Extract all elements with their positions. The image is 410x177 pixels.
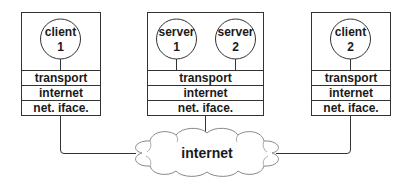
layer-net-iface: net. iface. [178,101,233,115]
layer-transport: transport [325,71,378,85]
layer-transport: transport [35,71,88,85]
app-label-server-2-line2: 2 [232,40,239,54]
internet-cloud-label: internet [181,145,233,161]
layer-transport: transport [179,71,232,85]
link-client-1 [61,115,137,154]
app-label-client-1-line1: client [45,25,76,39]
app-label-client-1-line2: 1 [57,40,64,54]
app-label-server-1-line1: server [158,25,194,39]
app-label-server-1-line2: 1 [173,40,180,54]
link-client-2 [276,115,351,154]
app-label-server-2-line1: server [217,25,253,39]
layer-internet: internet [39,86,83,100]
app-label-client-2-line2: 2 [347,40,354,54]
layer-internet: internet [183,86,227,100]
layer-net-iface: net. iface. [33,101,88,115]
network-diagram: client 1 transport internet net. iface. … [0,0,410,177]
layer-net-iface: net. iface. [323,101,378,115]
layer-internet: internet [329,86,373,100]
app-label-client-2-line1: client [335,25,366,39]
